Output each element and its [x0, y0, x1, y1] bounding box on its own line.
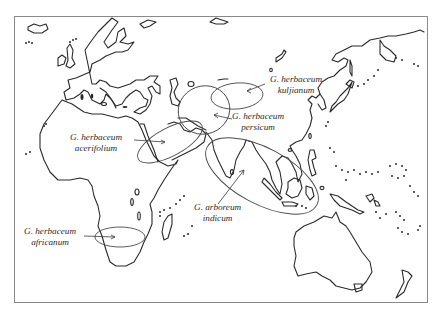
sakhalin-outline	[350, 60, 352, 76]
taiwan-island	[309, 134, 311, 139]
kamchatka-outline	[380, 40, 396, 62]
caspian-sea-outline	[170, 78, 180, 106]
label-indicum: G. arboreum indicum	[194, 202, 241, 224]
lake-balkhash-outline	[218, 79, 228, 80]
lake-tanganyika-outline	[131, 199, 134, 206]
zone-acerifolium	[132, 113, 209, 172]
new-guinea-outline	[330, 194, 364, 214]
label-persicum-species: G. herbaceum	[232, 111, 284, 122]
philippines-outline	[308, 150, 316, 176]
borneo-outline	[286, 178, 302, 198]
lake-malawi-outline	[138, 212, 141, 220]
label-indicum-variety: indicum	[194, 213, 241, 224]
arctic-coast-outline	[140, 20, 156, 28]
crete-island	[123, 106, 128, 108]
label-persicum: G. herbaceum persicum	[232, 111, 284, 133]
label-africanum-variety: africanum	[24, 237, 76, 248]
zone-kuljianum	[210, 81, 264, 111]
hainan-island	[288, 149, 292, 152]
lake-victoria-outline	[135, 189, 139, 195]
british-isles-outline	[58, 55, 66, 66]
label-acerifolium-variety: acerifolium	[70, 143, 122, 154]
solomon-islands-outline	[374, 200, 380, 206]
label-indicum-species: G. arboreum	[194, 202, 241, 213]
korea-outline	[318, 94, 326, 110]
iceland-outline	[28, 24, 48, 33]
madagascar-outline	[162, 214, 172, 240]
label-africanum-species: G. herbaceum	[24, 226, 76, 237]
label-kuljianum-species: G. herbaceum	[270, 74, 322, 85]
label-kuljianum-variety: kuljianum	[270, 85, 322, 96]
label-acerifolium: G. herbaceum acerifolium	[70, 132, 122, 154]
label-persicum-variety: persicum	[232, 122, 284, 133]
label-africanum: G. herbaceum africanum	[24, 226, 76, 248]
new-zealand-outline	[396, 270, 412, 298]
corsica-island	[81, 94, 84, 100]
red-sea-outline	[140, 124, 158, 162]
sulawesi-outline	[306, 186, 314, 200]
sumatra-outline	[262, 178, 282, 200]
world-map	[0, 0, 445, 318]
hokkaido-outline	[346, 80, 354, 88]
aral-sea-outline	[188, 82, 194, 87]
novaya-zemlya-outline	[210, 18, 228, 24]
lake-baikal-outline	[276, 50, 286, 62]
great-britain-outline	[66, 44, 75, 68]
label-kuljianum: G. herbaceum kuljianum	[270, 74, 322, 96]
small-lake-outline	[270, 68, 273, 72]
sardinia-island	[91, 94, 94, 99]
label-acerifolium-species: G. herbaceum	[70, 132, 122, 143]
small-island	[320, 186, 324, 189]
australia-outline	[294, 212, 372, 290]
new-caledonia-outline	[366, 194, 374, 202]
japan-outline	[330, 82, 352, 112]
sicily-island	[102, 103, 107, 106]
